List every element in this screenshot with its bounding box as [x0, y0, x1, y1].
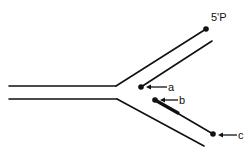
- point-c-dot: [210, 131, 216, 137]
- label-b: b: [179, 94, 185, 106]
- replication-fork-diagram: 5'P a b c: [0, 0, 249, 163]
- primer-segment: [155, 100, 178, 113]
- point-b-dot: [152, 97, 158, 103]
- arrowhead-c-icon: [218, 133, 223, 138]
- label-c: c: [238, 129, 244, 141]
- upper-parental-arm: [116, 29, 206, 86]
- label-five-prime: 5'P: [211, 11, 227, 23]
- label-a: a: [168, 81, 175, 93]
- arrowhead-a-icon: [146, 85, 151, 90]
- point-a-dot: [138, 84, 144, 90]
- five-prime-end-dot: [203, 26, 209, 32]
- lower-parental-arm: [117, 99, 204, 146]
